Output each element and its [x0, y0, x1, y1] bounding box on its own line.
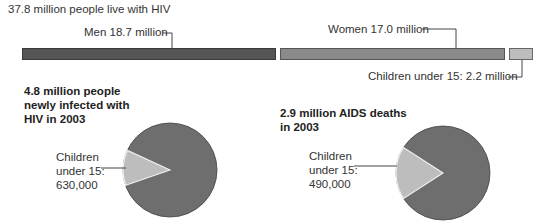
pie-deaths-heading: 2.9 million AIDS deaths in 2003 — [280, 106, 407, 134]
pie-deaths-label: Children under 15: 490,000 — [309, 149, 358, 191]
label-line: Children — [56, 150, 105, 164]
heading-line: newly infected with — [24, 98, 129, 112]
pie-deaths — [354, 126, 490, 220]
label-line: under 15: — [56, 164, 105, 178]
pie-infected-heading: 4.8 million people newly infected with H… — [24, 84, 129, 126]
label-line: 630,000 — [56, 178, 105, 192]
pie-infected — [101, 123, 217, 217]
heading-line: HIV in 2003 — [24, 112, 129, 126]
heading-line: in 2003 — [280, 120, 407, 134]
heading-line: 2.9 million AIDS deaths — [280, 106, 407, 120]
label-line: under 15: — [309, 163, 358, 177]
label-line: Children — [309, 149, 358, 163]
heading-line: 4.8 million people — [24, 84, 129, 98]
pie-infected-label: Children under 15: 630,000 — [56, 150, 105, 192]
label-line: 490,000 — [309, 177, 358, 191]
